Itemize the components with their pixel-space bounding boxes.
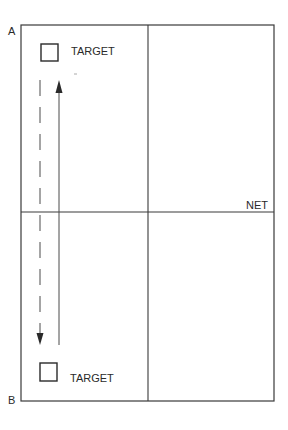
arrow-down-icon [37, 333, 44, 345]
arrow-up-icon [56, 80, 63, 93]
target-bottom-label: TARGET [70, 373, 114, 384]
target-top-label: TARGET [71, 46, 115, 57]
corner-label-b: B [8, 395, 15, 406]
target-top-square [41, 44, 58, 61]
court-diagram: A B TARGET TARGET NET [0, 0, 288, 430]
court-drawing [0, 0, 288, 430]
corner-label-a: A [8, 26, 15, 37]
net-label: NET [246, 200, 268, 211]
target-bottom-square [40, 363, 57, 381]
